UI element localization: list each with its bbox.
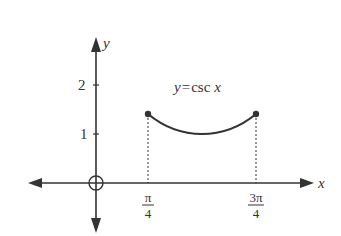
x-axis-left-arrow-icon: [28, 178, 42, 188]
x-axis-label: x: [317, 175, 325, 191]
x-axis: [28, 178, 314, 188]
y-axis-down-arrow-icon: [91, 218, 101, 233]
y-axis-label: y: [101, 35, 110, 51]
endpoint-right: [253, 111, 259, 117]
csc-curve: [148, 114, 256, 134]
csc-graph: y x 2 1 π 4 3π 4 y=cscx: [0, 0, 341, 236]
svg-text:4: 4: [145, 206, 152, 221]
x-tick-label-pi-over-4: π 4: [142, 190, 154, 221]
y-tick-label-2: 2: [78, 77, 86, 93]
y-axis: [91, 37, 101, 233]
svg-text:4: 4: [253, 206, 260, 221]
endpoint-left: [145, 111, 151, 117]
equation-label: y=cscx: [172, 79, 221, 95]
x-axis-right-arrow-icon: [300, 178, 314, 188]
y-axis-up-arrow-icon: [91, 37, 101, 52]
y-tick-label-1: 1: [80, 126, 88, 142]
svg-text:π: π: [145, 190, 152, 205]
svg-text:3π: 3π: [249, 190, 263, 205]
x-tick-label-3pi-over-4: 3π 4: [248, 190, 264, 221]
